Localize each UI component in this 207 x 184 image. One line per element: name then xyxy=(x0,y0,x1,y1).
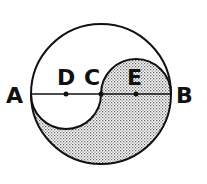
label-e: E xyxy=(127,65,142,90)
point-c xyxy=(99,92,104,97)
point-d xyxy=(64,92,69,97)
label-d: D xyxy=(57,65,75,90)
shaded-region xyxy=(31,59,171,164)
label-b: B xyxy=(176,83,193,108)
point-e xyxy=(134,92,139,97)
diagram-canvas: A B D C E xyxy=(0,0,207,184)
label-a: A xyxy=(6,83,23,108)
label-c: C xyxy=(84,65,100,90)
